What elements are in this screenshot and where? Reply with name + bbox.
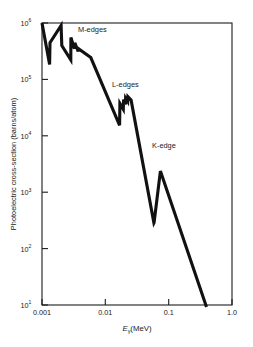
y-tick-label-1e2: 102 <box>21 243 32 254</box>
x-tick-label-0p001: 0.001 <box>33 308 51 317</box>
plot-border <box>42 23 232 305</box>
y-tick-label-1e5: 105 <box>21 74 32 85</box>
photoelectric-cross-section-figure: 101 102 103 104 105 106 <box>0 0 253 347</box>
annotation-m-edges: M-edges <box>78 25 107 34</box>
x-tick-label-0p1: 0.1 <box>164 308 174 317</box>
y-tick-label-1e4: 104 <box>21 130 32 141</box>
chart-canvas: 101 102 103 104 105 106 <box>0 0 253 347</box>
x-axis-title: Eγ(MeV) <box>122 324 152 334</box>
x-tick-label-0p01: 0.01 <box>98 308 112 317</box>
x-axis-tick-labels: 0.001 0.01 0.1 1.0 <box>33 308 237 317</box>
y-tick-label-1e3: 103 <box>21 187 32 198</box>
y-axis-title: Photoelectric cross-section (barns/atom) <box>9 98 18 230</box>
plot-frame <box>42 23 232 305</box>
annotation-l-edges: L-edges <box>112 80 139 89</box>
x-tick-label-1p0: 1.0 <box>227 308 237 317</box>
y-axis-tick-labels: 101 102 103 104 105 106 <box>21 17 32 310</box>
y-axis-ticks <box>42 23 48 305</box>
annotation-k-edge: K-edge <box>152 141 176 150</box>
cross-section-curve <box>42 23 207 307</box>
y-tick-label-1e6: 106 <box>21 17 32 28</box>
chart-annotations: M-edges L-edges K-edge <box>78 25 176 150</box>
y-tick-label-1e1: 101 <box>21 299 32 310</box>
